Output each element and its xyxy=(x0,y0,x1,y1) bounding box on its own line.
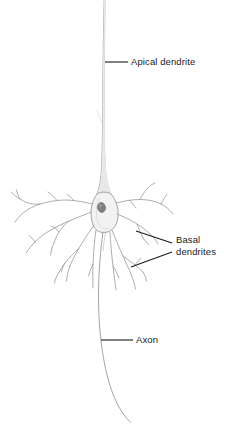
neuron-diagram-figure: Apical dendrite Basal dendrites Axon xyxy=(0,0,237,433)
basal-dendrites-right-group xyxy=(110,183,173,290)
basal-dendrite-right-mid-branch-b xyxy=(149,233,158,244)
basal-dendrite-left-mid-trunk xyxy=(51,212,92,230)
leader-line-basal-dendrites-lower xyxy=(131,252,172,267)
basal-dendrite-right-upper-twig-b xyxy=(161,195,167,205)
basal-dendrite-right-upper-branch-a xyxy=(140,188,148,200)
basal-dendrite-left-upper-branch-a xyxy=(11,192,40,204)
label-basal-dendrites-line1: Basal xyxy=(176,234,216,246)
basal-dendrite-right-mid-trunk xyxy=(117,214,149,233)
basal-dendrite-left-mid-twig-a xyxy=(51,243,55,255)
basal-dendrite-right-upper-twig-c xyxy=(130,200,136,208)
basal-dendrite-left-lower-trunk xyxy=(70,225,94,266)
axon-hillock xyxy=(103,231,106,251)
apical-dendrite-branch-left xyxy=(97,110,103,124)
basal-dendrite-left-upper-trunk xyxy=(40,200,93,204)
basal-dendrite-left-lower-branch-b xyxy=(67,266,71,281)
basal-dendrite-right-descender xyxy=(110,232,116,290)
basal-dendrite-right-lower-trunk xyxy=(112,230,131,274)
label-basal-dendrites-line2: dendrites xyxy=(176,246,216,258)
basal-dendrite-right-lower-branch-b xyxy=(131,274,136,289)
axon-shaft xyxy=(99,232,131,422)
label-apical-dendrite: Apical dendrite xyxy=(131,56,195,68)
soma-nucleolus-highlight xyxy=(99,204,102,208)
leader-line-basal-dendrites-upper xyxy=(136,231,172,243)
apical-dendrite-group xyxy=(97,0,112,194)
apical-dendrite-taper-fill xyxy=(97,0,111,194)
soma-group xyxy=(91,192,118,232)
basal-dendrite-right-upper-trunk xyxy=(116,200,161,205)
basal-dendrite-right-upper-branch-b xyxy=(161,204,173,214)
basal-dendrite-right-lower-twig-b xyxy=(143,272,147,281)
label-basal-dendrites: Basal dendrites xyxy=(176,234,216,257)
basal-dendrite-left-descender xyxy=(93,230,96,288)
basal-dendrite-right-upper-twig-a xyxy=(148,183,155,188)
basal-dendrite-left-upper-twig-b xyxy=(48,192,57,201)
label-axon: Axon xyxy=(136,334,158,346)
soma-body xyxy=(91,192,118,232)
basal-dendrite-left-mid-branch-b xyxy=(26,230,51,253)
basal-dendrite-left-upper-twig-c xyxy=(67,195,74,201)
neuron-illustration xyxy=(0,0,237,433)
basal-dendrite-left-mid-twig-c xyxy=(29,236,35,243)
basal-dendrite-right-mid-twig-a xyxy=(143,238,149,245)
axon-group xyxy=(99,231,131,422)
basal-dendrites-left-group xyxy=(11,190,96,288)
basal-dendrite-left-upper-branch-b xyxy=(15,204,40,222)
basal-dendrite-left-lower-twig-b xyxy=(55,274,59,283)
